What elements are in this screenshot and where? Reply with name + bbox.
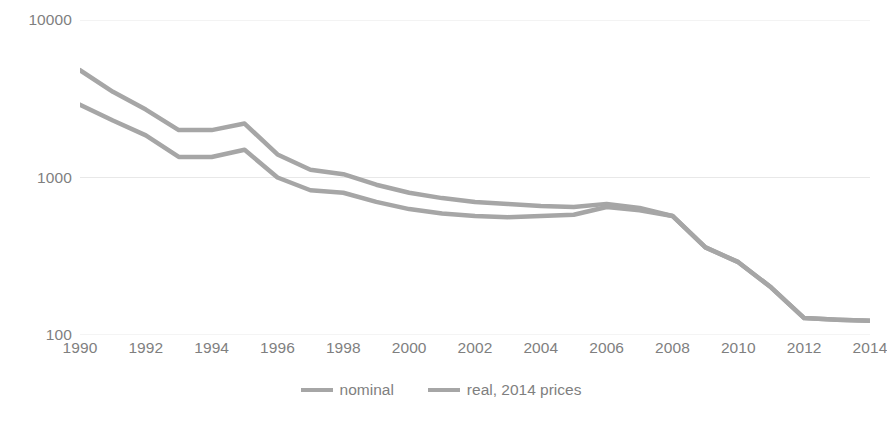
x-axis-tick-label: 1998 [326, 340, 361, 356]
x-axis-tick-label: 2014 [853, 340, 887, 356]
x-axis-tick-label: 1996 [260, 340, 295, 356]
legend-label: real, 2014 prices [467, 382, 582, 398]
chart-legend: nominalreal, 2014 prices [0, 382, 882, 398]
x-axis-tick-label: 2012 [787, 340, 822, 356]
series-line-real [80, 105, 870, 321]
legend-item[interactable]: real, 2014 prices [428, 382, 582, 398]
x-axis-tick-label: 2008 [655, 340, 690, 356]
legend-item[interactable]: nominal [301, 382, 394, 398]
x-axis-tick-label: 2000 [392, 340, 427, 356]
x-axis-tick-label: 2006 [589, 340, 624, 356]
y-axis-tick-label: 100 [0, 327, 72, 343]
plot-area [80, 20, 870, 335]
legend-color-swatch [301, 388, 333, 392]
x-axis: 1990199219941996199820002002200420062008… [80, 340, 870, 366]
x-axis-tick-label: 2010 [721, 340, 756, 356]
x-axis-tick-label: 2004 [523, 340, 558, 356]
y-axis-tick-label: 1000 [0, 170, 72, 186]
x-axis-tick-label: 1994 [194, 340, 229, 356]
series-lines [80, 20, 870, 335]
legend-label: nominal [340, 382, 394, 398]
series-line-nominal [80, 70, 870, 321]
x-axis-tick-label: 1992 [128, 340, 163, 356]
x-axis-tick-label: 2002 [458, 340, 493, 356]
y-axis-tick-label: 10000 [0, 12, 72, 28]
legend-color-swatch [428, 388, 460, 392]
y-axis: 100001000100 [0, 0, 72, 432]
x-axis-tick-label: 1990 [63, 340, 98, 356]
